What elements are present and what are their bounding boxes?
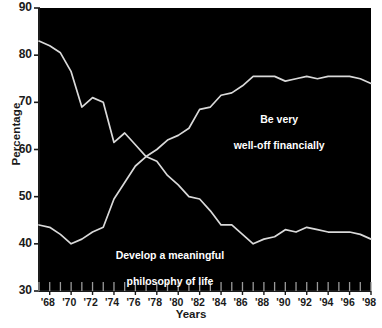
y-axis-tick-label: 60 bbox=[0, 142, 32, 156]
series-label-line-2: well-off financially bbox=[234, 139, 325, 151]
x-axis-title: Years bbox=[0, 308, 382, 320]
y-axis-tick-label: 40 bbox=[0, 236, 32, 250]
x-axis-tick-label: '88 bbox=[255, 296, 269, 308]
x-axis-tick-label: '86 bbox=[233, 296, 247, 308]
y-axis-tick-label: 30 bbox=[0, 283, 32, 297]
y-axis-tick-label: 70 bbox=[0, 94, 32, 108]
x-axis-tick-label: '94 bbox=[319, 296, 333, 308]
x-axis-tick-label: '68 bbox=[41, 296, 55, 308]
x-axis-tick-label: '72 bbox=[84, 296, 98, 308]
series-label-line-1: Be very bbox=[260, 113, 298, 125]
x-axis-tick-label: '78 bbox=[148, 296, 162, 308]
x-axis-tick-label: '76 bbox=[126, 296, 140, 308]
y-axis-tick-label: 80 bbox=[0, 47, 32, 61]
x-axis-tick-label: '92 bbox=[298, 296, 312, 308]
x-axis-tick-label: '90 bbox=[276, 296, 290, 308]
y-axis-tick-label: 50 bbox=[0, 189, 32, 203]
series-label-develop-a-meaningful-philosophy-of-life: Develop a meaningful philosophy of life bbox=[104, 236, 224, 301]
x-axis-tick-label: '96 bbox=[341, 296, 355, 308]
series-label-line-2: philosophy of life bbox=[126, 275, 213, 287]
series-label-be-very-well-off-financially: Be very well-off financially bbox=[222, 100, 325, 165]
line-chart: Percentage Years Be very well-off financ… bbox=[0, 0, 382, 328]
x-axis-tick-label: '74 bbox=[105, 296, 119, 308]
x-axis-tick-label: '80 bbox=[169, 296, 183, 308]
x-axis-tick-label: '82 bbox=[191, 296, 205, 308]
series-label-line-1: Develop a meaningful bbox=[116, 249, 225, 261]
y-axis-tick-label: 90 bbox=[0, 0, 32, 14]
x-axis-tick-label: '98 bbox=[362, 296, 376, 308]
x-axis-tick-label: '70 bbox=[62, 296, 76, 308]
x-axis-tick-label: '84 bbox=[212, 296, 226, 308]
